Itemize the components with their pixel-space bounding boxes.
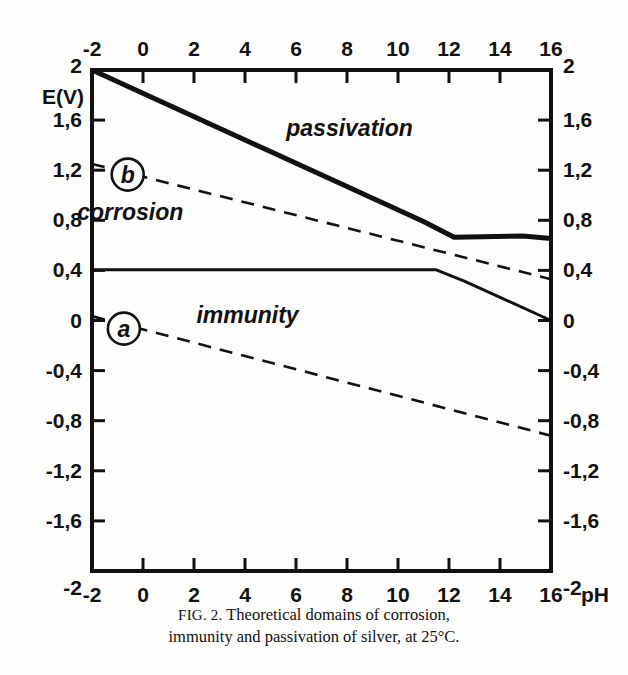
curve-a bbox=[92, 316, 551, 436]
x-tick-label-bottom: 16 bbox=[539, 583, 562, 606]
caption-line-2: immunity and passivation of silver, at 2… bbox=[0, 626, 628, 648]
x-tick-label-top: 0 bbox=[137, 37, 149, 60]
x-tick-label-top: -2 bbox=[83, 37, 102, 60]
y-tick-label-left: 2 bbox=[70, 54, 82, 77]
x-tick-label-top: 8 bbox=[341, 37, 353, 60]
x-tick-label-bottom: 8 bbox=[341, 583, 353, 606]
x-tick-label-top: 6 bbox=[290, 37, 302, 60]
x-tick-label-bottom: -2 bbox=[83, 583, 102, 606]
x-tick-label-bottom: 2 bbox=[188, 583, 200, 606]
y-tick-label-right: 0,4 bbox=[563, 258, 593, 281]
y-tick-label-right: -0,8 bbox=[563, 409, 600, 432]
y-tick-label-right: -2 bbox=[563, 576, 582, 599]
x-axis-unit-label: pH bbox=[581, 583, 609, 606]
y-tick-label-left: 0 bbox=[70, 309, 82, 332]
x-tick-label-top: 16 bbox=[539, 37, 562, 60]
region-label-immunity: immunity bbox=[196, 302, 299, 328]
y-tick-label-right: -0,4 bbox=[563, 359, 600, 382]
x-tick-label-top: 2 bbox=[188, 37, 200, 60]
region-label-passivation: passivation bbox=[285, 115, 413, 141]
annotation-label-a: a bbox=[117, 316, 130, 342]
y-tick-label-right: 0 bbox=[563, 309, 575, 332]
y-tick-label-left: -2 bbox=[63, 576, 82, 599]
x-tick-label-bottom: 10 bbox=[386, 583, 409, 606]
x-tick-label-top: 4 bbox=[239, 37, 251, 60]
y-tick-label-left: 1,6 bbox=[53, 108, 82, 131]
x-tick-label-top: 12 bbox=[437, 37, 460, 60]
curve-immunity-boundary bbox=[92, 270, 551, 321]
figure-number: FIG. 2. bbox=[178, 607, 222, 623]
y-tick-label-left: -1,6 bbox=[46, 509, 82, 532]
y-tick-label-left: 1,2 bbox=[53, 158, 82, 181]
y-tick-label-right: 1,2 bbox=[563, 158, 592, 181]
y-tick-label-left: -0,8 bbox=[46, 409, 83, 432]
region-label-corrosion: corrosion bbox=[77, 199, 183, 225]
y-tick-label-left: 0,4 bbox=[53, 258, 83, 281]
y-tick-label-right: -1,2 bbox=[563, 459, 599, 482]
y-tick-label-right: 0,8 bbox=[563, 208, 593, 231]
x-tick-label-bottom: 12 bbox=[437, 583, 460, 606]
y-tick-label-right: 2 bbox=[563, 54, 575, 77]
x-tick-label-bottom: 0 bbox=[137, 583, 149, 606]
x-tick-label-bottom: 6 bbox=[290, 583, 302, 606]
x-tick-label-top: 10 bbox=[386, 37, 409, 60]
y-tick-label-right: -1,6 bbox=[563, 509, 599, 532]
caption-line-1: Theoretical domains of corrosion, bbox=[226, 605, 450, 624]
plot-frame bbox=[92, 70, 551, 571]
y-tick-label-left: -0,4 bbox=[46, 359, 83, 382]
y-axis-title: E(V) bbox=[42, 85, 84, 108]
x-tick-label-bottom: 14 bbox=[488, 583, 512, 606]
x-tick-label-top: 14 bbox=[488, 37, 512, 60]
figure-caption: FIG. 2. Theoretical domains of corrosion… bbox=[0, 604, 628, 648]
annotation-label-b: b bbox=[121, 162, 135, 188]
pourbaix-diagram: -2-200224466881010121214141616pH221,61,6… bbox=[0, 0, 628, 675]
figure-pourbaix-silver: -2-200224466881010121214141616pH221,61,6… bbox=[0, 0, 628, 675]
y-tick-label-left: -1,2 bbox=[46, 459, 82, 482]
y-tick-label-right: 1,6 bbox=[563, 108, 592, 131]
x-tick-label-bottom: 4 bbox=[239, 583, 251, 606]
